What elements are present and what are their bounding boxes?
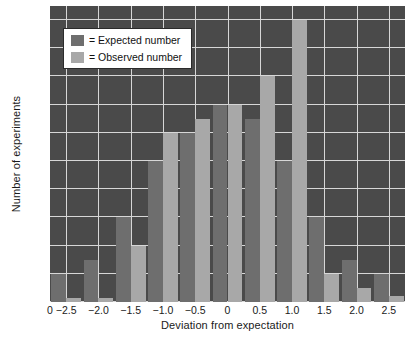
- histogram-figure: Number of experiments Deviation from exp…: [0, 0, 417, 339]
- bar: [324, 274, 339, 302]
- bar: [228, 105, 243, 302]
- bar: [292, 20, 307, 302]
- bar: [195, 119, 210, 302]
- bar: [389, 296, 404, 302]
- bar: [84, 260, 99, 302]
- bar: [98, 298, 113, 302]
- x-axis-title: Deviation from expectation: [50, 319, 405, 331]
- legend-label-observed: = Observed number: [89, 51, 182, 63]
- bar: [342, 260, 357, 302]
- bar: [116, 217, 131, 302]
- bar: [260, 76, 275, 302]
- gridline-vertical: [357, 6, 358, 302]
- legend-item: = Observed number: [71, 51, 182, 63]
- bar: [66, 298, 81, 302]
- gridline-vertical: [324, 6, 325, 302]
- bar: [245, 119, 260, 302]
- bar: [180, 133, 195, 302]
- expected-swatch: [71, 35, 84, 46]
- legend-label-expected: = Expected number: [89, 34, 180, 46]
- bar: [374, 274, 389, 302]
- x-tick-label: 2.5: [366, 305, 412, 316]
- bar: [51, 274, 66, 302]
- legend-item: = Expected number: [71, 34, 182, 46]
- gridline-vertical: [389, 6, 390, 302]
- bar: [131, 246, 146, 302]
- bar: [277, 161, 292, 302]
- y-axis-title: Number of experiments: [10, 74, 22, 234]
- bar: [213, 105, 228, 302]
- bar: [357, 288, 372, 302]
- bar: [309, 217, 324, 302]
- bar: [163, 133, 178, 302]
- bar: [148, 161, 163, 302]
- observed-swatch: [71, 52, 84, 63]
- chart-legend: = Expected number = Observed number: [63, 28, 192, 69]
